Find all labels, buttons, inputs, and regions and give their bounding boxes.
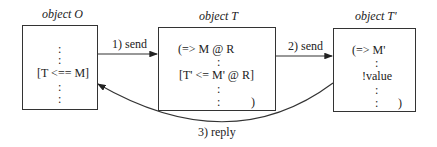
object-o-title: object O [42,7,83,22]
object-tprime-line: : [375,96,378,111]
object-tprime-line: (=> M' [352,43,385,58]
send2-label: 2) send [288,39,323,54]
object-t-box: (=> M @ R : [T' <= M' @ R] : : ) [158,27,276,111]
reply-label: 3) reply [198,125,236,140]
object-t-line: : [217,95,220,110]
object-t-title: object T [199,9,238,24]
send1-label: 1) send [112,37,147,52]
object-tprime-line: ) [398,96,402,111]
object-t-line: [T' <= M' @ R] [179,68,254,83]
object-tprime-line: !value [362,69,392,84]
object-tprime-box: (=> M' : !value : : ) [333,28,416,112]
object-t-line: (=> M @ R [178,42,234,57]
object-t-line: ) [251,95,255,110]
object-tprime-title: object T' [355,9,397,24]
object-o-line: [T <== M] [37,66,89,81]
object-o-box: : : [T <== M] : : [22,25,98,110]
object-o-line: : [58,92,61,107]
